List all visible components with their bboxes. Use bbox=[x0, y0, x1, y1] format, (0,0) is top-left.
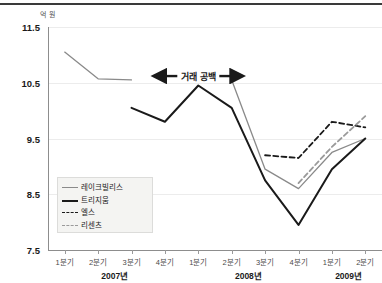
chart-container: 억 원 11.510.59.58.57.5 1분기2분기3분기4분기1분기2분기… bbox=[0, 0, 382, 283]
legend-swatch-icon bbox=[62, 200, 78, 202]
legend-item-label: 엘스 bbox=[81, 207, 95, 219]
legend-item[interactable]: 엘스 bbox=[62, 207, 150, 219]
legend-item-label: 리센츠 bbox=[81, 220, 102, 232]
annotation-label: 거래 공백 bbox=[181, 70, 216, 83]
plot-area bbox=[0, 0, 382, 283]
series-line bbox=[65, 52, 132, 80]
legend-item[interactable]: 리센츠 bbox=[62, 220, 150, 232]
series-line bbox=[132, 86, 366, 225]
legend-swatch-icon bbox=[62, 225, 78, 226]
legend: 레이크빌리스트리지움엘스리센츠 bbox=[57, 177, 153, 233]
legend-item[interactable]: 트리지움 bbox=[62, 195, 150, 207]
legend-item[interactable]: 레이크빌리스 bbox=[62, 182, 150, 194]
legend-swatch-icon bbox=[62, 212, 78, 213]
legend-item-label: 레이크빌리스 bbox=[81, 182, 123, 194]
legend-swatch-icon bbox=[62, 187, 78, 188]
legend-item-label: 트리지움 bbox=[81, 195, 109, 207]
